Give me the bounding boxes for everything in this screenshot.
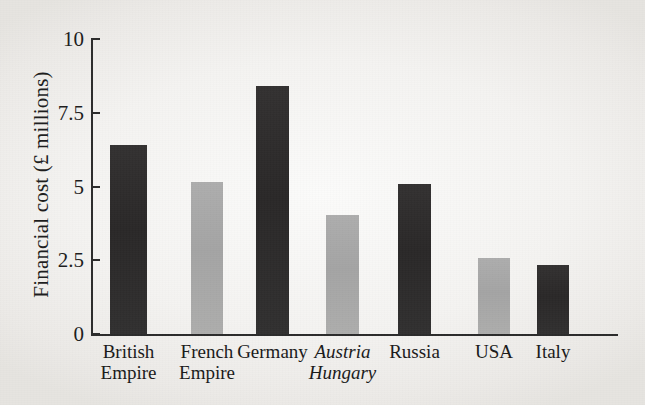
x-label-line2: Empire [152, 362, 262, 383]
y-tick-label-text: 2.5 [24, 250, 84, 271]
x-axis-line [91, 334, 618, 336]
bar-french-empire [191, 182, 223, 334]
y-tick-label: 7.5 [18, 103, 84, 125]
chart-title [0, 0, 645, 6]
x-label-line1: British [103, 341, 155, 362]
y-tick-label: 10 [18, 29, 84, 51]
bar-british-empire [110, 145, 147, 334]
x-label-line2: Hungary [288, 362, 398, 383]
x-label-line1: Russia [389, 341, 440, 362]
bar-italy [537, 265, 569, 334]
y-tick-label: 5 [18, 177, 84, 199]
y-tick-mark [91, 112, 100, 114]
bar-germany [256, 86, 289, 334]
y-tick-mark [91, 333, 100, 335]
bar-chart-figure: Financial cost (£ millions) 02.557.510 B… [0, 0, 645, 405]
x-label-line1: Italy [536, 341, 571, 362]
x-label-italy: Italy [498, 341, 608, 362]
bar-usa [478, 258, 510, 334]
y-tick-label-text: 7.5 [24, 103, 84, 124]
y-tick-mark [91, 186, 100, 188]
y-tick-mark [91, 38, 100, 40]
y-tick-label-text: 5 [24, 177, 84, 198]
bar-russia [398, 184, 431, 334]
y-tick-mark [91, 259, 100, 261]
y-tick-label-text: 10 [24, 29, 84, 50]
bar-austria-hungary [326, 215, 359, 334]
y-tick-label: 2.5 [18, 250, 84, 272]
